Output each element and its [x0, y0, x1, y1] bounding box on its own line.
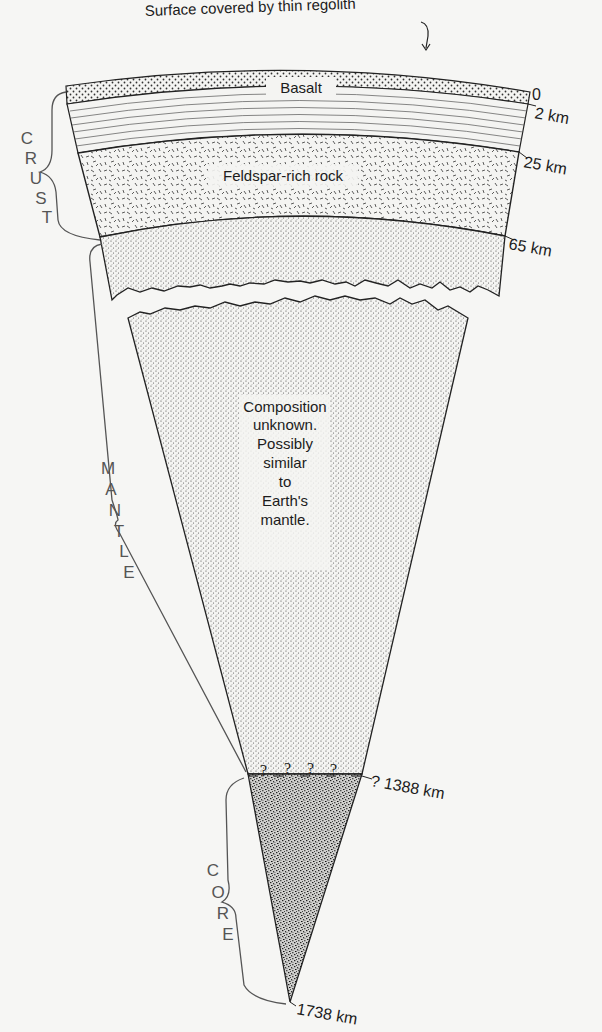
mantle-text-line: Composition: [243, 398, 326, 415]
mantle-letter: N: [109, 501, 121, 520]
mantle-text-line: to: [279, 473, 292, 490]
feldspar-label: Feldspar-rich rock: [223, 167, 344, 184]
crust-letter: S: [35, 189, 46, 208]
core-letter: O: [211, 883, 224, 902]
core-layer: [248, 774, 362, 1002]
crust-letter: U: [30, 169, 42, 188]
basalt-label: Basalt: [280, 79, 323, 96]
mantle-text-line: unknown.: [253, 416, 317, 433]
core-letter: C: [207, 861, 219, 880]
upper-mantle-layer: [100, 216, 505, 300]
crust-letter: C: [21, 129, 33, 148]
mantle-letter: L: [119, 542, 128, 561]
mantle-letter: E: [123, 563, 134, 582]
depth-label-1738km: 1738 km: [295, 1000, 358, 1027]
uncertainty-mark: ?: [284, 760, 291, 777]
mantle-text-line: mantle.: [260, 511, 309, 528]
mantle-text-line: Earth's: [262, 492, 308, 509]
uncertainty-mark: ?: [330, 761, 337, 778]
mantle-text-line: Possibly: [257, 435, 313, 452]
mantle-letter: M: [101, 459, 115, 478]
depth-label-0: 0: [532, 86, 541, 103]
depth-label-25km: 25 km: [522, 153, 568, 177]
uncertainty-mark: ?: [307, 760, 314, 777]
core-letter: E: [222, 925, 233, 944]
depth-label-65km: 65 km: [507, 235, 553, 259]
mantle-text-line: similar: [263, 454, 306, 471]
mantle-letter: T: [114, 522, 124, 541]
surface-annotation: Surface covered by thin regolith: [145, 0, 356, 19]
core-letter: R: [217, 904, 229, 923]
mantle-letter: A: [105, 480, 117, 499]
crust-letter: T: [42, 208, 52, 227]
crust-letter: R: [25, 149, 37, 168]
depth-label-1388km: ? 1388 km: [369, 772, 446, 802]
crust-section: Basalt Feldspar-rich rock: [66, 70, 530, 300]
uncertainty-mark: ?: [260, 762, 267, 779]
moon-interior-diagram: Surface covered by thin regolith Basalt …: [0, 0, 602, 1032]
depth-label-2km: 2 km: [533, 104, 570, 127]
